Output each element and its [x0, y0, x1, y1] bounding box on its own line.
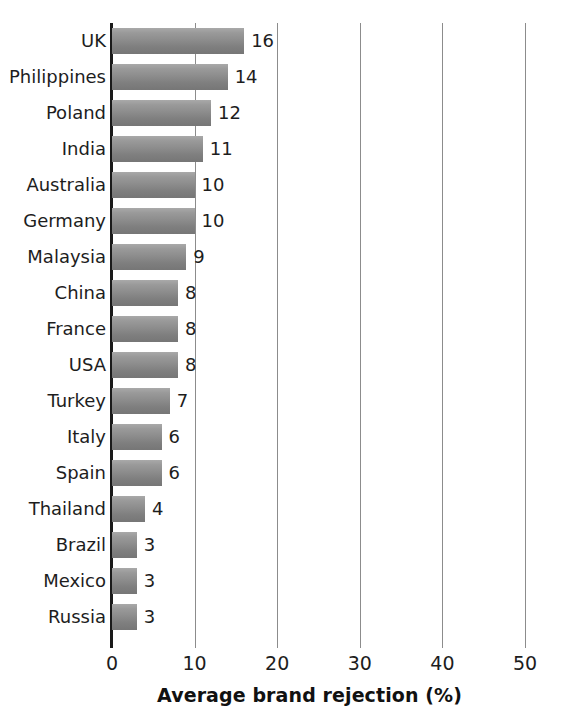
bar: [112, 424, 162, 450]
bar-row: Italy6: [0, 419, 561, 455]
bar: [112, 460, 162, 486]
x-tick-label-50: 50: [513, 652, 537, 674]
bar-value-label: 9: [193, 239, 204, 275]
category-label: Australia: [26, 167, 106, 203]
bar: [112, 316, 178, 342]
plot-area: UK16Philippines14Poland12India11Australi…: [0, 0, 561, 719]
bar-row: Spain6: [0, 455, 561, 491]
category-label: Brazil: [56, 527, 106, 563]
category-label: Germany: [23, 203, 106, 239]
bar-value-label: 3: [144, 599, 155, 635]
category-label: Malaysia: [27, 239, 106, 275]
category-label: China: [55, 275, 106, 311]
bar-row: France8: [0, 311, 561, 347]
bar: [112, 532, 137, 558]
bar-value-label: 11: [210, 131, 233, 167]
category-label: Poland: [46, 95, 106, 131]
x-tick-label-0: 0: [106, 652, 118, 674]
bar: [112, 100, 211, 126]
bar-value-label: 12: [218, 95, 241, 131]
bar: [112, 136, 203, 162]
bar-chart-figure: UK16Philippines14Poland12India11Australi…: [0, 0, 561, 719]
bar-value-label: 3: [144, 527, 155, 563]
category-label: USA: [69, 347, 106, 383]
x-axis-title: Average brand rejection (%): [0, 684, 561, 706]
category-label: UK: [81, 23, 106, 59]
bar-row: Mexico3: [0, 563, 561, 599]
bar-row: Germany10: [0, 203, 561, 239]
bar-value-label: 10: [202, 167, 225, 203]
bar-value-label: 7: [177, 383, 188, 419]
bar-value-label: 6: [169, 419, 180, 455]
bar: [112, 352, 178, 378]
x-tick-label-10: 10: [183, 652, 207, 674]
category-label: Russia: [48, 599, 106, 635]
bar: [112, 28, 244, 54]
bar: [112, 568, 137, 594]
bar: [112, 496, 145, 522]
bar-value-label: 4: [152, 491, 163, 527]
bar-row: Thailand4: [0, 491, 561, 527]
bar-row: USA8: [0, 347, 561, 383]
bar: [112, 388, 170, 414]
bar-value-label: 16: [251, 23, 274, 59]
bar: [112, 172, 195, 198]
bar-row: Russia3: [0, 599, 561, 635]
category-label: Philippines: [9, 59, 106, 95]
x-tick-label-20: 20: [265, 652, 289, 674]
bar-value-label: 8: [185, 275, 196, 311]
category-label: Turkey: [47, 383, 106, 419]
bar-value-label: 8: [185, 347, 196, 383]
bar: [112, 280, 178, 306]
bar-row: Brazil3: [0, 527, 561, 563]
category-label: Mexico: [43, 563, 106, 599]
bar: [112, 208, 195, 234]
x-tick-label-30: 30: [348, 652, 372, 674]
bar-value-label: 8: [185, 311, 196, 347]
bar-row: UK16: [0, 23, 561, 59]
bar-row: Australia10: [0, 167, 561, 203]
category-label: France: [46, 311, 106, 347]
bar-value-label: 10: [202, 203, 225, 239]
bar-value-label: 3: [144, 563, 155, 599]
category-label: Thailand: [29, 491, 106, 527]
bar-row: Turkey7: [0, 383, 561, 419]
category-label: Spain: [56, 455, 106, 491]
bar-value-label: 6: [169, 455, 180, 491]
bar-row: India11: [0, 131, 561, 167]
bar: [112, 604, 137, 630]
x-tick-label-40: 40: [430, 652, 454, 674]
bar-row: Poland12: [0, 95, 561, 131]
bar-value-label: 14: [235, 59, 258, 95]
bar: [112, 64, 228, 90]
category-label: Italy: [67, 419, 106, 455]
x-axis-title-text: Average brand rejection (%): [99, 684, 462, 706]
bar-row: China8: [0, 275, 561, 311]
bar: [112, 244, 186, 270]
bar-row: Philippines14: [0, 59, 561, 95]
bar-row: Malaysia9: [0, 239, 561, 275]
category-label: India: [62, 131, 106, 167]
